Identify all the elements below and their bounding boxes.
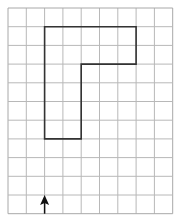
arrow-up-icon bbox=[40, 195, 49, 214]
grid-lines bbox=[8, 8, 173, 214]
grid-diagram bbox=[0, 0, 175, 220]
